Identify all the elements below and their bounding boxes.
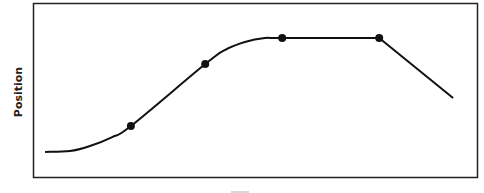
data-point-1	[201, 60, 209, 68]
x-axis-label-clipped	[231, 191, 249, 193]
data-point-3	[375, 34, 383, 42]
data-point-2	[278, 34, 286, 42]
data-point-0	[127, 122, 135, 130]
y-axis-label: Position	[12, 67, 25, 117]
position-time-chart: Position	[0, 0, 484, 193]
plot-frame	[34, 4, 478, 178]
